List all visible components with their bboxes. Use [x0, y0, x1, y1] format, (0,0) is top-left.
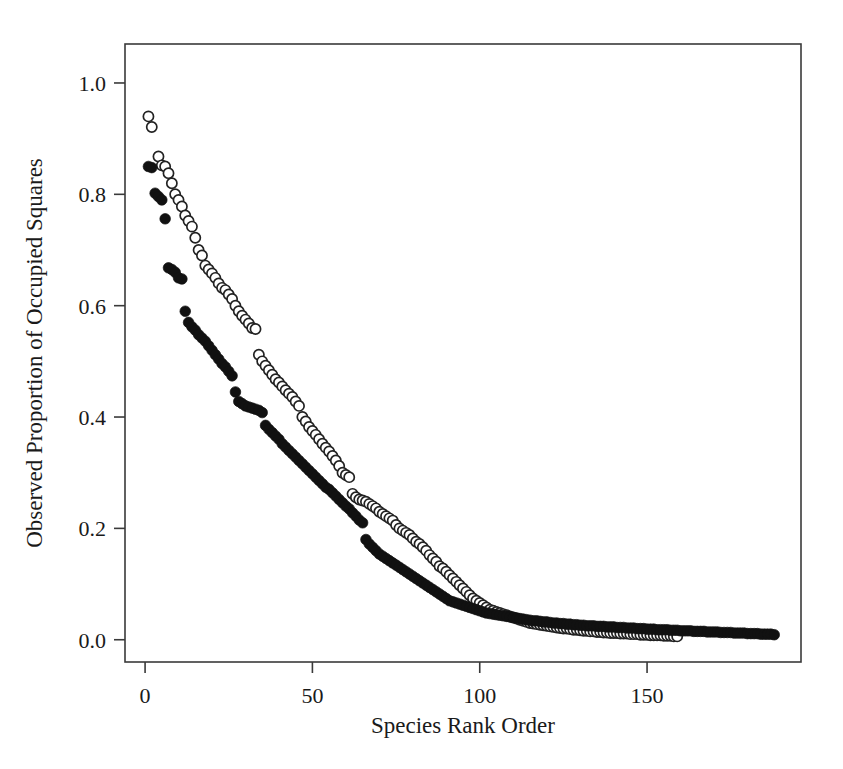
y-tick-label: 0.2	[79, 516, 107, 541]
data-point	[230, 387, 241, 398]
data-point	[187, 222, 197, 232]
series-open-circles	[143, 111, 682, 641]
data-point	[344, 472, 354, 482]
plot-border	[125, 44, 801, 662]
y-axis-ticks: 0.00.20.40.60.81.0	[79, 71, 126, 653]
data-point	[257, 407, 268, 418]
data-point	[294, 401, 304, 411]
x-tick-label: 150	[631, 683, 664, 708]
scatter-plot: 050100150 0.00.20.40.60.81.0 Species Ran…	[0, 0, 843, 769]
chart-figure: 050100150 0.00.20.40.60.81.0 Species Ran…	[0, 0, 843, 769]
plot-frame	[125, 44, 801, 662]
data-point	[180, 306, 191, 317]
x-tick-label: 100	[463, 683, 496, 708]
data-point	[250, 324, 260, 334]
y-tick-label: 1.0	[79, 71, 107, 96]
y-tick-label: 0.4	[79, 405, 107, 430]
y-tick-label: 0.8	[79, 182, 107, 207]
data-point	[227, 371, 238, 382]
data-point	[146, 162, 157, 173]
data-point	[177, 274, 188, 285]
data-point	[143, 111, 153, 121]
y-axis-title: Observed Proportion of Occupied Squares	[22, 158, 47, 548]
data-point	[163, 168, 173, 178]
data-point	[147, 122, 157, 132]
data-point	[167, 178, 177, 188]
y-tick-label: 0.0	[79, 628, 107, 653]
series-filled-circles	[143, 161, 779, 640]
data-point	[197, 250, 207, 260]
x-tick-label: 50	[301, 683, 323, 708]
data-point	[157, 195, 168, 206]
x-axis-ticks: 050100150	[140, 662, 664, 708]
data-point	[190, 233, 200, 243]
data-point	[769, 629, 780, 640]
y-tick-label: 0.6	[79, 294, 107, 319]
data-point	[160, 214, 171, 225]
x-axis-title: Species Rank Order	[371, 713, 555, 738]
data-point	[357, 518, 368, 529]
x-tick-label: 0	[140, 683, 151, 708]
